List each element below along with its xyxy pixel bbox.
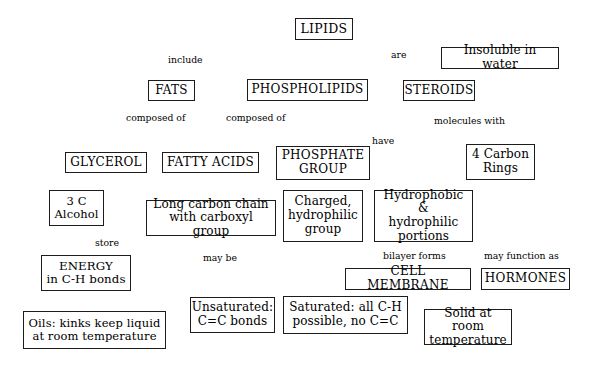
edge-fattyacids-to-longchain bbox=[208, 173, 209, 200]
edge-unsaturated-to-oils bbox=[166, 318, 190, 327]
node-oils[interactable]: Oils: kinks keep liquid at room temperat… bbox=[23, 311, 166, 349]
edge-phospholipids-to-glycerol bbox=[140, 101, 262, 155]
edge-phospholipids-to-phosphate bbox=[308, 101, 317, 146]
edge-fats-to-fattyacids bbox=[178, 101, 205, 152]
node-phosphate[interactable]: PHOSPHATE GROUP bbox=[276, 146, 370, 180]
node-lipids[interactable]: LIPIDS bbox=[295, 18, 353, 40]
node-longchain[interactable]: Long carbon chain with carboxyl group bbox=[146, 200, 276, 236]
node-charged[interactable]: Charged, hydrophilic group bbox=[283, 190, 363, 242]
edge-glycerol-to-threec bbox=[79, 173, 85, 190]
node-phospholipids[interactable]: PHOSPHOLIPIDS bbox=[247, 79, 368, 101]
node-glycerol[interactable]: GLYCEROL bbox=[65, 152, 147, 173]
node-insoluble[interactable]: Insoluble in water bbox=[441, 47, 559, 69]
edge-label-bilayer: bilayer forms bbox=[383, 251, 446, 261]
edge-longchain-to-saturated bbox=[212, 236, 318, 296]
node-fattyacids[interactable]: FATTY ACIDS bbox=[162, 152, 259, 173]
node-unsaturated[interactable]: Unsaturated: C=C bonds bbox=[190, 297, 275, 333]
edge-label-comp2: composed of bbox=[226, 113, 285, 123]
node-fats[interactable]: FATS bbox=[148, 80, 195, 101]
edge-label-store: store bbox=[95, 238, 119, 248]
edge-phosphate-to-charged bbox=[317, 180, 318, 190]
node-hormones[interactable]: HORMONES bbox=[481, 268, 570, 290]
node-fourcarbon[interactable]: 4 Carbon Rings bbox=[466, 144, 535, 180]
edge-lipids-to-phospholipids bbox=[307, 40, 320, 79]
node-steroids[interactable]: STEROIDS bbox=[403, 80, 475, 101]
edge-label-function: may function as bbox=[484, 251, 559, 261]
edge-label-have: have bbox=[372, 136, 394, 146]
node-hydro[interactable]: Hydrophobic & hydrophilic portions bbox=[374, 190, 473, 242]
node-threec[interactable]: 3 C Alcohol bbox=[49, 190, 104, 226]
node-solid[interactable]: Solid at room temperature bbox=[424, 309, 512, 345]
edge-label-molecules: molecules with bbox=[434, 116, 505, 126]
edge-label-maybe: may be bbox=[203, 253, 237, 263]
node-energy[interactable]: ENERGY in C-H bonds bbox=[41, 255, 131, 291]
concept-map-canvas: LIPIDSInsoluble in waterFATSPHOSPHOLIPID… bbox=[0, 0, 593, 372]
edge-label-comp1: composed of bbox=[126, 113, 185, 123]
edge-saturated-to-solid bbox=[408, 318, 424, 325]
edge-fats-to-glycerol bbox=[103, 101, 166, 152]
edge-label-include: include bbox=[168, 55, 203, 65]
node-saturated[interactable]: Saturated: all C-H possible, no C=C bbox=[283, 296, 408, 334]
node-cellmembrane[interactable]: CELL MEMBRANE bbox=[345, 268, 471, 290]
edge-phospholipids-to-fattyacids bbox=[222, 101, 282, 152]
edge-longchain-to-unsaturated bbox=[207, 236, 226, 297]
edge-label-are: are bbox=[391, 50, 407, 60]
